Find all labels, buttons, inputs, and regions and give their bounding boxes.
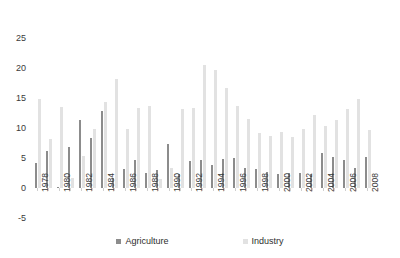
x-tick-mark <box>257 188 258 191</box>
y-tick-label: 20 <box>4 64 26 73</box>
bar-agriculture <box>167 144 169 188</box>
chart-legend: Agriculture Industry <box>0 236 400 246</box>
x-tick-mark <box>213 188 214 191</box>
x-tick-mark <box>169 188 170 191</box>
x-tick-mark <box>147 188 148 191</box>
bar-group <box>197 0 208 258</box>
bar-group <box>252 0 263 258</box>
square-swatch-icon <box>116 239 121 244</box>
bar-agriculture <box>145 173 147 188</box>
x-tick-mark <box>279 188 280 191</box>
x-tick-mark <box>158 188 159 191</box>
x-tick-mark <box>268 188 269 191</box>
x-tick-mark <box>290 188 291 191</box>
bar-group <box>296 0 307 258</box>
y-tick-label: 15 <box>4 94 26 103</box>
legend-label-agriculture: Agriculture <box>125 236 168 246</box>
x-tick-mark <box>356 188 357 191</box>
bar-agriculture <box>123 169 125 188</box>
x-tick-mark <box>37 188 38 191</box>
x-tick-mark <box>334 188 335 191</box>
bar-agriculture <box>365 157 367 188</box>
bar-agriculture <box>343 160 345 188</box>
bar-group <box>164 0 175 258</box>
bar-group <box>109 0 120 258</box>
bar-group <box>362 0 373 258</box>
bar-group <box>307 0 318 258</box>
bar-agriculture <box>79 120 81 188</box>
bar-group <box>373 0 384 258</box>
bar-group <box>32 0 43 258</box>
x-tick-mark <box>301 188 302 191</box>
bar-group <box>87 0 98 258</box>
bar-group <box>175 0 186 258</box>
bar-group <box>131 0 142 258</box>
bar-group <box>65 0 76 258</box>
bar-agriculture <box>35 163 37 188</box>
x-tick-mark <box>246 188 247 191</box>
bar-group <box>263 0 274 258</box>
x-tick-mark <box>191 188 192 191</box>
bar-group <box>98 0 109 258</box>
x-tick-mark <box>224 188 225 191</box>
bar-chart: 2520151050-5 197819801982198419861988199… <box>0 0 400 258</box>
bar-agriculture <box>277 174 279 188</box>
x-tick-mark <box>312 188 313 191</box>
bar-group <box>241 0 252 258</box>
plot-area <box>32 0 392 258</box>
x-tick-mark <box>323 188 324 191</box>
x-tick-mark <box>378 188 379 191</box>
y-tick-label: 5 <box>4 154 26 163</box>
y-tick-label: 10 <box>4 124 26 133</box>
x-tick-mark <box>235 188 236 191</box>
y-tick-label: 0 <box>4 184 26 193</box>
x-tick-mark <box>202 188 203 191</box>
x-tick-mark <box>59 188 60 191</box>
bar-group <box>329 0 340 258</box>
bar-group <box>208 0 219 258</box>
legend-item-agriculture: Agriculture <box>116 236 168 246</box>
x-tick-mark <box>367 188 368 191</box>
bar-agriculture <box>299 173 301 188</box>
x-tick-mark <box>114 188 115 191</box>
bar-industry <box>214 70 216 188</box>
bar-industry <box>115 79 117 188</box>
x-tick-mark <box>345 188 346 191</box>
legend-item-industry: Industry <box>243 236 284 246</box>
x-tick-mark <box>81 188 82 191</box>
bar-group <box>318 0 329 258</box>
x-tick-mark <box>70 188 71 191</box>
bar-group <box>43 0 54 258</box>
bar-agriculture <box>321 153 323 188</box>
y-tick-label: -5 <box>4 214 26 223</box>
bar-group <box>285 0 296 258</box>
bar-group <box>186 0 197 258</box>
x-tick-mark <box>180 188 181 191</box>
x-tick-mark <box>92 188 93 191</box>
x-tick-mark <box>136 188 137 191</box>
bar-agriculture <box>255 169 257 188</box>
bar-group <box>230 0 241 258</box>
bar-group <box>340 0 351 258</box>
bar-agriculture <box>189 161 191 188</box>
bar-group <box>351 0 362 258</box>
bar-agriculture <box>233 158 235 188</box>
bar-agriculture <box>101 111 103 188</box>
legend-label-industry: Industry <box>252 236 284 246</box>
bar-group <box>153 0 164 258</box>
bar-group <box>54 0 65 258</box>
x-tick-mark <box>125 188 126 191</box>
square-swatch-icon <box>243 239 248 244</box>
bar-group <box>76 0 87 258</box>
bar-agriculture <box>211 165 213 188</box>
bar-group <box>142 0 153 258</box>
bar-group <box>120 0 131 258</box>
bar-industry <box>203 65 205 188</box>
x-tick-mark <box>103 188 104 191</box>
y-tick-label: 25 <box>4 34 26 43</box>
x-tick-mark <box>48 188 49 191</box>
bar-group <box>219 0 230 258</box>
bar-group <box>274 0 285 258</box>
